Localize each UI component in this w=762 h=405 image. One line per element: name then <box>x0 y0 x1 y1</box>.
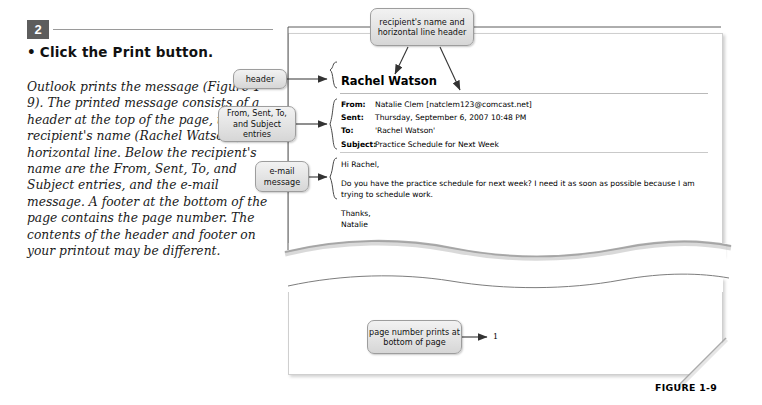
message-closing: Thanks, <box>341 208 713 219</box>
callout-email-message: e-mail message <box>255 161 309 192</box>
field-value-sent: Thursday, September 6, 2007 10:48 PM <box>375 112 721 124</box>
page-tear-wave-lower <box>283 268 733 294</box>
field-label-subject: Subject: <box>341 139 375 151</box>
field-value-to: 'Rachel Watson' <box>375 125 721 137</box>
step-instruction-text: Click the Print button. <box>40 44 214 60</box>
printout-field-list: From: Natalie Clem [natclem123@comcast.n… <box>341 99 721 152</box>
field-value-from: Natalie Clem [natclem123@comcast.net] <box>375 99 721 111</box>
printout-horizontal-line <box>340 93 708 94</box>
page-corner-fold-icon <box>676 336 730 388</box>
step-number-badge: 2 <box>27 20 49 39</box>
field-value-subject: Practice Schedule for Next Week <box>375 139 721 151</box>
message-greeting: Hi Rachel, <box>341 159 713 170</box>
callout-recipient-name: recipient's name and horizontal line hea… <box>370 8 474 46</box>
field-row-sent: Sent: Thursday, September 6, 2007 10:48 … <box>341 112 721 124</box>
field-label-sent: Sent: <box>341 112 375 124</box>
callout-header: header <box>233 69 287 89</box>
printout-fields-divider <box>340 152 708 153</box>
step-header-rule <box>53 29 273 30</box>
bullet-icon: • <box>27 44 36 60</box>
step-instruction: •Click the Print button. <box>27 44 277 60</box>
printout-message-body: Hi Rachel, Do you have the practice sche… <box>341 159 713 238</box>
page-tear-wave-upper <box>282 236 734 270</box>
field-row-from: From: Natalie Clem [natclem123@comcast.n… <box>341 99 721 111</box>
figure-caption: FIGURE 1-9 <box>655 382 717 393</box>
printout-page-number: 1 <box>493 332 498 341</box>
message-signature: Natalie <box>341 219 713 230</box>
field-label-from: From: <box>341 99 375 111</box>
field-row-subject: Subject: Practice Schedule for Next Week <box>341 139 721 151</box>
printout-recipient-name: Rachel Watson <box>341 74 437 88</box>
field-row-to: To: 'Rachel Watson' <box>341 125 721 137</box>
message-paragraph: Do you have the practice schedule for ne… <box>341 178 713 200</box>
figure-container: 2 •Click the Print button. Outlook print… <box>0 0 762 405</box>
callout-page-number: page number prints at bottom of page <box>367 320 462 354</box>
callout-fields: From, Sent, To, and Subject entries <box>218 106 296 142</box>
field-label-to: To: <box>341 125 375 137</box>
